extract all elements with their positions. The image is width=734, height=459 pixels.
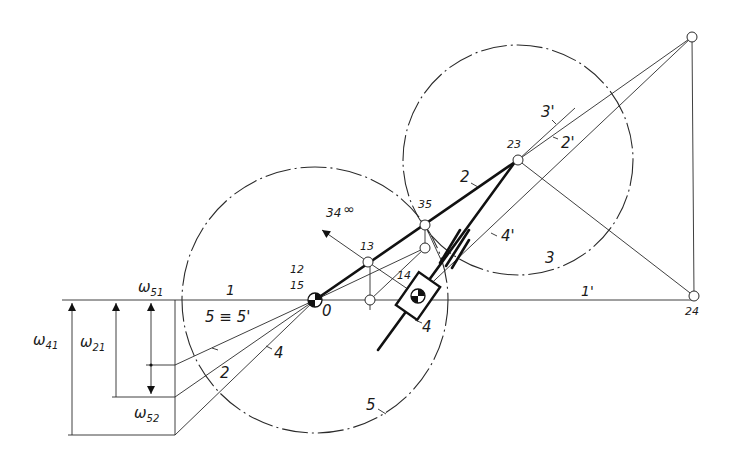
- tick-4-slider: [415, 320, 422, 323]
- label-link-1: 1: [226, 282, 235, 298]
- tick-2: [212, 348, 218, 350]
- fixed-pivot-slider-icon: [411, 289, 425, 303]
- kinematic-diagram: ω51 ω21 ω41 ω52 12 15 0 13 14 35 23 24 3…: [0, 0, 734, 459]
- label-w41: ω41: [33, 331, 58, 351]
- label-15: 15: [290, 279, 304, 292]
- label-link-3p: 3': [541, 103, 555, 121]
- label-w21: ω21: [80, 333, 105, 353]
- label-0: 0: [322, 302, 332, 320]
- label-link-1p: 1': [581, 283, 594, 299]
- label-34-inf: 34∞: [326, 201, 355, 220]
- fixed-pivot-O-icon: [308, 293, 322, 307]
- joint-below-35: [420, 243, 430, 253]
- line-23-24: [518, 160, 694, 296]
- label-12: 12: [290, 263, 304, 276]
- tick-2p: [553, 137, 558, 139]
- label-link-2: 2: [460, 168, 470, 186]
- joint-35: [420, 220, 430, 230]
- label-link-4-left: 4: [274, 344, 284, 362]
- joint-13: [363, 257, 373, 267]
- label-w51: ω51: [138, 278, 163, 298]
- label-14: 14: [397, 269, 411, 282]
- label-link-2-left: 2: [220, 364, 230, 382]
- w-junction-dot: [149, 363, 152, 366]
- label-23: 23: [507, 138, 521, 151]
- label-link-5-eq: 5 ≡ 5': [205, 308, 250, 326]
- tick-4: [266, 346, 272, 349]
- line-23-topright: [518, 37, 692, 160]
- label-link-5: 5: [366, 396, 376, 414]
- joint-23: [513, 155, 523, 165]
- label-35: 35: [418, 198, 432, 211]
- joint-topright: [687, 32, 697, 42]
- label-link-4-slider: 4: [422, 318, 432, 336]
- label-link-2p: 2': [561, 134, 575, 152]
- joint-24: [689, 291, 699, 301]
- joint-on-baseline: [365, 295, 375, 305]
- label-w52: ω52: [134, 404, 159, 424]
- label-13: 13: [360, 240, 374, 253]
- vertical-right: [692, 37, 694, 296]
- label-link-4p: 4': [501, 227, 515, 245]
- tick-5: [378, 409, 386, 414]
- label-link-3: 3: [545, 249, 555, 267]
- tick-2-link: [471, 183, 478, 187]
- tick-4p: [491, 233, 497, 236]
- label-24: 24: [685, 305, 699, 318]
